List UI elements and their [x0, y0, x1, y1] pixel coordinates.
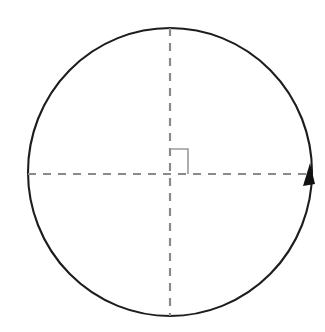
figure-canvas — [0, 0, 325, 332]
diagram-background — [0, 0, 325, 332]
circle-diagram — [0, 0, 325, 332]
